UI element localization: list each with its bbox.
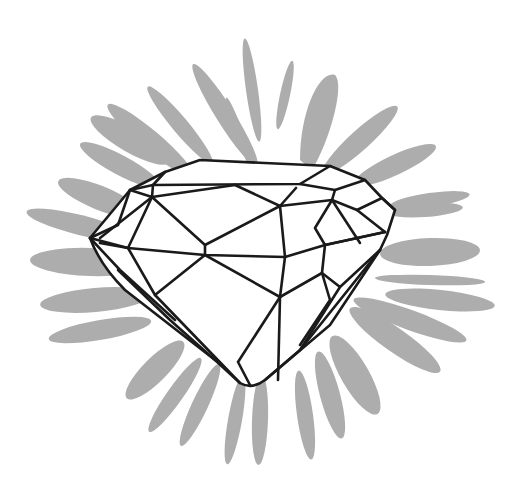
illustration-canvas: Faceted diamond line drawing with gray s… bbox=[0, 0, 526, 492]
diamond-drawing bbox=[0, 0, 526, 492]
